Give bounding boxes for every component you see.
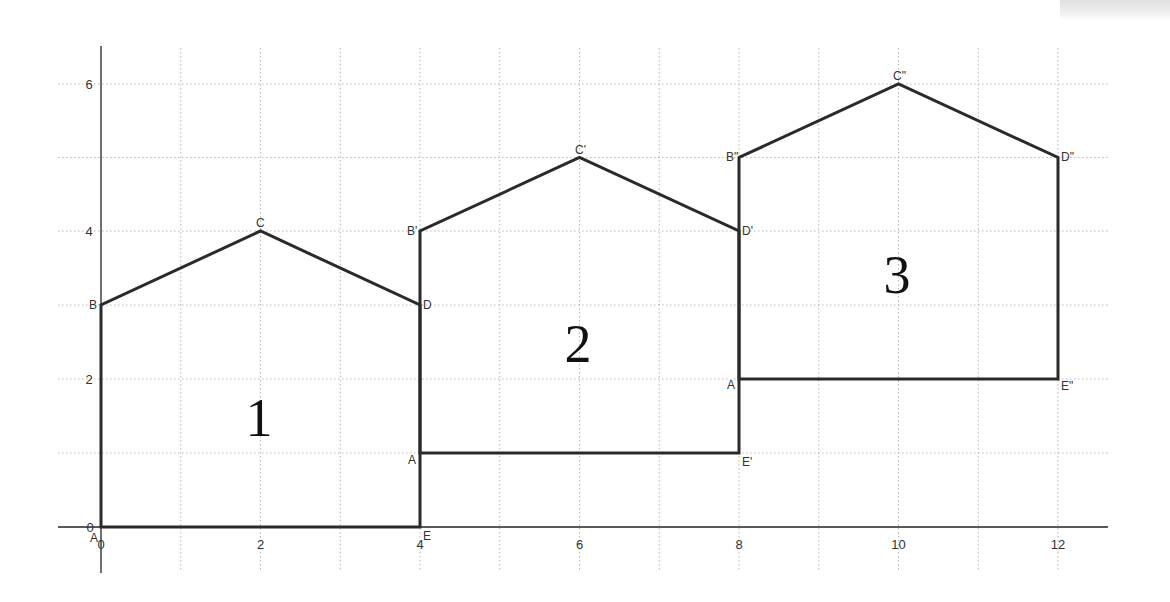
- point-label-e-prime: E': [742, 455, 752, 469]
- x-tick-0: 0: [97, 537, 104, 552]
- point-label-d-double-prime: D": [1061, 150, 1074, 164]
- x-tick-2: 2: [257, 537, 264, 552]
- point-label-e: E: [423, 529, 431, 543]
- x-tick-8: 8: [735, 537, 742, 552]
- x-tick-6: 6: [576, 537, 583, 552]
- y-tick-6: 6: [85, 77, 92, 92]
- point-label-b-prime: B': [407, 224, 417, 238]
- point-label-d: D: [423, 298, 432, 312]
- house-2-number: 2: [565, 314, 592, 374]
- point-label-a-prime: A: [408, 453, 416, 467]
- house-3-number: 3: [884, 245, 911, 305]
- house-1: [101, 231, 420, 527]
- point-label-c: C: [256, 216, 265, 230]
- point-label-a-double-prime: A: [727, 378, 735, 392]
- x-tick-labels: 0 2 4 6 8 10 12: [97, 537, 1065, 552]
- x-tick-10: 10: [891, 537, 905, 552]
- grid: [58, 48, 1108, 572]
- coordinate-plane: 0 2 4 6 8 10 12 0 2 4 6 A B C D E A B' C…: [0, 0, 1170, 602]
- x-tick-12: 12: [1051, 537, 1065, 552]
- point-label-b: B: [89, 298, 97, 312]
- house-1-number: 1: [246, 388, 273, 448]
- point-label-c-double-prime: C": [893, 69, 906, 83]
- point-label-a: A: [90, 531, 98, 545]
- point-label-c-prime: C': [575, 143, 586, 157]
- point-label-b-double-prime: B": [726, 150, 738, 164]
- y-tick-4: 4: [85, 224, 92, 239]
- point-label-e-double-prime: E": [1061, 379, 1073, 393]
- y-tick-2: 2: [85, 372, 92, 387]
- point-label-d-prime: D': [742, 224, 753, 238]
